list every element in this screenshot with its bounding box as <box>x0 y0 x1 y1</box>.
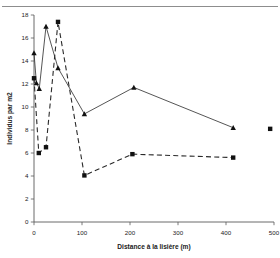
datapoint-solid-triangles-6 <box>131 85 136 90</box>
y-tick-label-4: 4 <box>25 172 29 179</box>
x-tick-label-400: 400 <box>221 229 232 236</box>
x-tick-label-100: 100 <box>77 229 88 236</box>
y-tick-label-0: 0 <box>25 218 29 225</box>
x-tick-label-300: 300 <box>173 229 184 236</box>
y-tick-label-2: 2 <box>25 195 29 202</box>
x-axis-title: Distance à la lisière (m) <box>117 243 190 251</box>
datapoint-dashed-squares-3 <box>56 20 60 24</box>
datapoint-dashed-squares-2 <box>44 145 48 149</box>
datapoint-dashed-squares-4 <box>82 173 86 177</box>
series-line-solid-triangles <box>34 27 233 128</box>
datapoint-dashed-squares-6 <box>231 155 235 159</box>
figure-canvas: 0246810121416180100200300400500Distance … <box>0 0 280 258</box>
datapoint-dashed-squares-1 <box>37 151 41 155</box>
datapoint-dashed-squares-0 <box>32 76 36 80</box>
y-tick-label-10: 10 <box>22 103 29 110</box>
datapoint-solid-triangles-4 <box>55 65 60 70</box>
y-tick-label-14: 14 <box>22 57 29 64</box>
y-tick-label-6: 6 <box>25 149 29 156</box>
y-tick-label-16: 16 <box>22 34 29 41</box>
datapoint-solid-triangles-7 <box>231 125 236 130</box>
chart-plot-area: 0246810121416180100200300400500Distance … <box>0 0 280 258</box>
x-tick-label-200: 200 <box>125 229 136 236</box>
y-tick-label-18: 18 <box>22 11 29 18</box>
datapoint-solid-triangles-3 <box>43 24 48 29</box>
datapoint-isolated-square-0 <box>268 127 272 131</box>
x-tick-label-500: 500 <box>269 229 280 236</box>
y-axis-title: Individus par m2 <box>6 92 14 145</box>
datapoint-solid-triangles-2 <box>37 86 42 91</box>
y-tick-label-8: 8 <box>25 126 29 133</box>
datapoint-dashed-squares-5 <box>130 152 134 156</box>
datapoint-solid-triangles-5 <box>82 111 87 116</box>
datapoint-solid-triangles-0 <box>31 50 36 55</box>
y-tick-label-12: 12 <box>22 80 29 87</box>
x-tick-label-0: 0 <box>32 229 36 236</box>
